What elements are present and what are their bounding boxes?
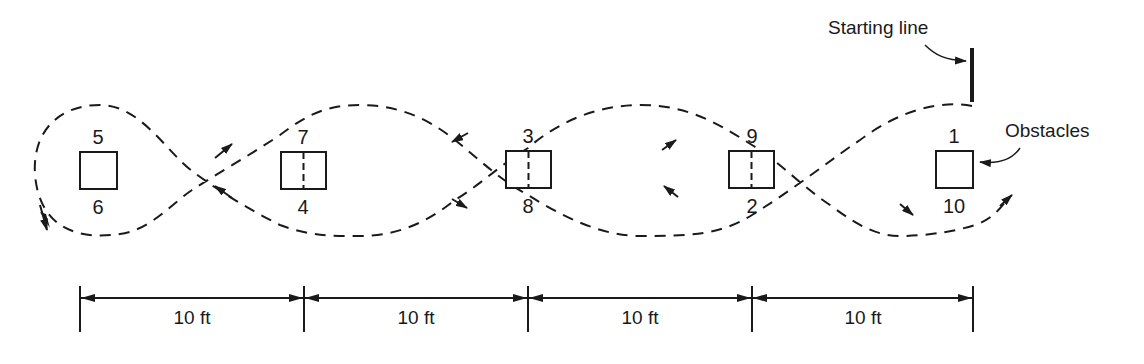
dimension-label: 10 ft [845, 307, 883, 328]
obstacles-leader [980, 148, 1020, 162]
obstacle-3: 3 8 [506, 125, 551, 217]
obstacle-course-diagram: Starting line Obstacles 5 6 7 4 3 8 9 2 … [0, 0, 1144, 364]
obstacle-1: 5 6 [80, 126, 117, 218]
obstacle-label-top: 5 [92, 126, 103, 148]
obstacles-callout: Obstacles [1005, 120, 1089, 141]
obstacle-label-top: 7 [297, 126, 308, 148]
obstacle-5: 1 10 [936, 125, 973, 217]
obstacle-label-bottom: 6 [92, 196, 103, 218]
obstacle-label-bottom: 8 [522, 195, 533, 217]
obstacle-label-bottom: 4 [297, 196, 308, 218]
dimension-label: 10 ft [174, 307, 212, 328]
obstacle-4: 9 2 [729, 125, 774, 217]
obstacle-label-bottom: 2 [746, 195, 757, 217]
starting-line-leader [925, 45, 966, 61]
obstacle-label-top: 1 [948, 125, 959, 147]
dimension-label: 10 ft [622, 307, 660, 328]
obstacle-label-top: 3 [522, 125, 533, 147]
dimension-label: 10 ft [398, 307, 436, 328]
dimension-lines [80, 286, 973, 332]
obstacle-label-top: 9 [746, 125, 757, 147]
starting-line-callout: Starting line [828, 17, 928, 38]
obstacle-2: 7 4 [281, 126, 326, 218]
obstacle-label-bottom: 10 [943, 195, 965, 217]
